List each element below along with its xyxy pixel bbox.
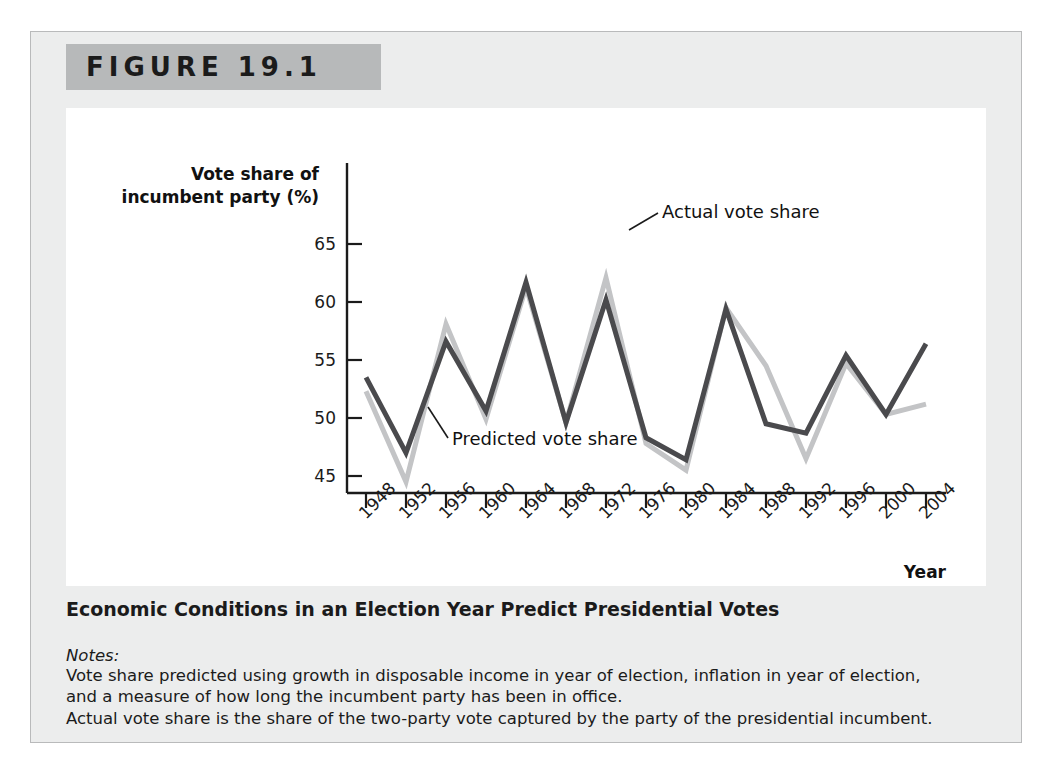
annotation-leader-predicted bbox=[428, 407, 448, 438]
x-tick-label-1968: 1968 bbox=[555, 478, 600, 523]
y-tick-label-50: 50 bbox=[314, 408, 336, 428]
x-tick-label-1964: 1964 bbox=[515, 478, 560, 523]
y-tick-label-55: 55 bbox=[314, 350, 336, 370]
x-tick-label-1984: 1984 bbox=[715, 478, 760, 523]
y-tick-label-60: 60 bbox=[314, 292, 336, 312]
y-tick-label-45: 45 bbox=[314, 466, 336, 486]
x-tick-label-1960: 1960 bbox=[475, 478, 520, 523]
figure-caption: Economic Conditions in an Election Year … bbox=[66, 598, 991, 620]
chart-panel: Vote share of incumbent party (%) 65 60 … bbox=[66, 108, 986, 586]
x-tick-label-1952: 1952 bbox=[395, 478, 440, 523]
x-tick-label-1988: 1988 bbox=[755, 478, 800, 523]
y-axis-title-line2: incumbent party (%) bbox=[122, 187, 319, 207]
x-tick-label-1992: 1992 bbox=[795, 478, 840, 523]
y-tick-label-65: 65 bbox=[314, 234, 336, 254]
y-axis-title-line1: Vote share of bbox=[191, 164, 320, 184]
note-line: Vote share predicted using growth in dis… bbox=[66, 665, 991, 686]
x-tick-label-1976: 1976 bbox=[635, 478, 680, 523]
x-tick-label-1956: 1956 bbox=[435, 478, 480, 523]
caption-and-notes: Economic Conditions in an Election Year … bbox=[66, 598, 991, 729]
note-line: and a measure of how long the incumbent … bbox=[66, 686, 991, 707]
line-chart: Vote share of incumbent party (%) 65 60 … bbox=[66, 108, 986, 586]
x-axis-tick-labels: 1948195219561960196419681972197619801984… bbox=[355, 478, 960, 523]
series-line-actual-vote-share bbox=[366, 278, 926, 482]
y-axis-ticks bbox=[347, 244, 362, 476]
x-axis-title: Year bbox=[903, 562, 947, 582]
x-tick-label-1980: 1980 bbox=[675, 478, 720, 523]
x-tick-label-2004: 2004 bbox=[915, 478, 960, 523]
x-tick-label-1972: 1972 bbox=[595, 478, 640, 523]
figure-header-bar: FIGURE 19.1 bbox=[66, 44, 381, 90]
annotation-label-predicted: Predicted vote share bbox=[452, 428, 638, 449]
annotation-label-actual: Actual vote share bbox=[662, 201, 820, 222]
x-tick-label-2000: 2000 bbox=[875, 478, 920, 523]
x-tick-label-1948: 1948 bbox=[355, 478, 400, 523]
annotation-leader-actual bbox=[629, 213, 658, 230]
x-tick-label-1996: 1996 bbox=[835, 478, 880, 523]
notes-heading: Notes: bbox=[66, 646, 991, 665]
note-line: Actual vote share is the share of the tw… bbox=[66, 708, 991, 729]
figure-container: FIGURE 19.1 Vote share of incumbent part… bbox=[30, 31, 1022, 743]
figure-number-label: FIGURE 19.1 bbox=[66, 52, 322, 82]
